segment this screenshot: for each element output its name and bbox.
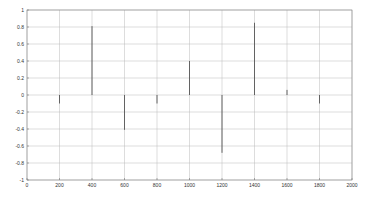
x-tick-label: 1000 [184, 182, 195, 188]
x-tick-label: 600 [120, 182, 129, 188]
y-tick-label: 1 [21, 7, 24, 13]
stem-chart: 0200400600800100012001400160018002000 10… [0, 0, 373, 197]
x-tick-label: 1600 [281, 182, 292, 188]
x-tick-label: 400 [88, 182, 97, 188]
x-tick-label: 2000 [346, 182, 357, 188]
y-tick-label: 0 [21, 92, 24, 98]
y-tick-label: 0.2 [17, 75, 24, 81]
y-tick-label: -0.6 [15, 143, 24, 149]
x-tick-label: 0 [26, 182, 29, 188]
y-tick-label: -0.8 [15, 160, 24, 166]
y-tick-label: 0.4 [17, 58, 24, 64]
x-tick-label: 200 [55, 182, 64, 188]
x-axis-ticks: 0200400600800100012001400160018002000 [26, 178, 358, 188]
x-tick-label: 1200 [216, 182, 227, 188]
y-tick-label: -0.2 [15, 109, 24, 115]
x-tick-label: 1800 [314, 182, 325, 188]
x-tick-label: 1400 [249, 182, 260, 188]
y-tick-label: 0.8 [17, 24, 24, 30]
y-tick-label: 0.6 [17, 41, 24, 47]
x-tick-label: 800 [153, 182, 162, 188]
y-tick-label: -1 [20, 177, 25, 183]
y-tick-label: -0.4 [15, 126, 24, 132]
